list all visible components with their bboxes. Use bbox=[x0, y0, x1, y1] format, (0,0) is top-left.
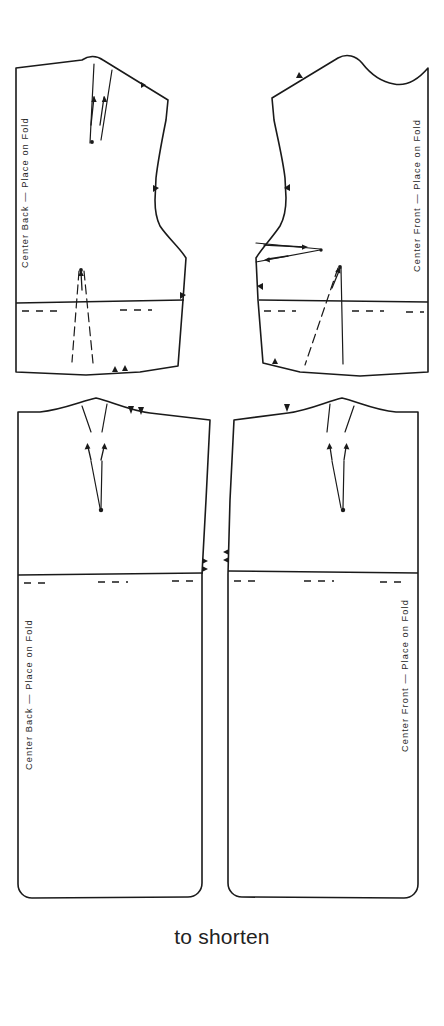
bodice-back-waist-dart-point bbox=[79, 268, 83, 272]
pattern-sheet: Center Back — Place on Fold bbox=[0, 0, 444, 1026]
skirt-back-fold-label: Center Back — Place on Fold bbox=[24, 619, 34, 770]
skirt-front-waist-dart-point bbox=[341, 508, 345, 512]
skirt-front-fold-label: Center Front — Place on Fold bbox=[400, 599, 410, 752]
piece-skirt-back: Center Back — Place on Fold bbox=[18, 398, 210, 898]
bodice-back-shoulder-dart-point bbox=[90, 140, 94, 144]
bodice-front-fold-label: Center Front — Place on Fold bbox=[412, 119, 422, 272]
skirt-back-waist-dart-point bbox=[99, 508, 103, 512]
piece-skirt-front: Center Front — Place on Fold bbox=[223, 398, 418, 898]
skirt-front-outline bbox=[228, 398, 418, 898]
skirt-back-outline bbox=[18, 398, 210, 898]
pattern-diagram: Center Back — Place on Fold bbox=[0, 0, 444, 1026]
diagram-caption: to shorten bbox=[0, 925, 444, 949]
bodice-front-waist-dart-point bbox=[338, 265, 342, 269]
bodice-back-fold-label: Center Back — Place on Fold bbox=[20, 117, 30, 268]
bodice-front-bust-dart-point bbox=[319, 248, 322, 251]
